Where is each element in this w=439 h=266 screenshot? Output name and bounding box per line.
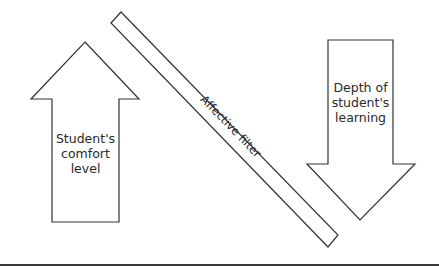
down-arrow-label-line: Depth of — [326, 80, 395, 95]
up-arrow-label-line: Student's — [52, 131, 119, 146]
down-arrow-label-line: learning — [326, 110, 395, 125]
affective-filter-label: Affective filter — [198, 92, 265, 160]
up-arrow-label-line: comfort — [52, 146, 119, 161]
down-arrow-shape — [307, 40, 415, 220]
up-arrow-label: Student's comfort level — [52, 131, 119, 176]
down-arrow-label: Depth of student's learning — [326, 80, 395, 125]
up-arrow-label-line: level — [52, 161, 119, 176]
down-arrow-label-line: student's — [326, 95, 395, 110]
